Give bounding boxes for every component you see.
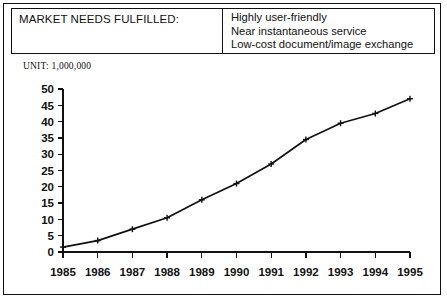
data-point-marker [407,96,413,102]
data-point-marker [372,110,378,116]
y-axis-tick-label: 0 [48,246,54,258]
y-axis-tick-label: 10 [41,214,54,226]
x-axis-tick-label: 1992 [293,266,319,278]
y-axis: 05101520253035404550 [41,83,63,258]
chart-canvas: 05101520253035404550 1985198619871988198… [0,0,447,302]
x-axis-tick-label: 1991 [258,266,284,278]
data-point-marker [164,215,170,221]
x-axis: 1985198619871988198919901991199219931994… [50,252,423,278]
y-axis-tick-label: 20 [41,181,54,193]
data-point-marker [338,120,344,126]
data-point-marker [199,197,205,203]
line-chart: 05101520253035404550 1985198619871988198… [0,0,447,302]
x-axis-tick-label: 1987 [120,266,146,278]
x-axis-tick-label: 1995 [397,266,423,278]
y-axis-tick-label: 35 [41,132,54,144]
data-point-marker [95,238,101,244]
y-axis-tick-label: 15 [41,197,54,209]
y-axis-tick-label: 25 [41,165,54,177]
x-axis-tick-label: 1989 [189,266,215,278]
y-axis-tick-label: 40 [41,116,54,128]
y-axis-tick-label: 50 [41,83,54,95]
y-axis-tick-label: 30 [41,148,54,160]
data-point-marker [60,244,66,250]
x-axis-tick-label: 1988 [154,266,180,278]
x-axis-tick-label: 1990 [224,266,250,278]
x-axis-tick-label: 1986 [85,266,111,278]
x-axis-tick-label: 1993 [328,266,354,278]
data-series [60,96,413,250]
figure-root: MARKET NEEDS FULFILLED: Highly user-frie… [0,0,447,302]
x-axis-tick-label: 1985 [50,266,76,278]
x-axis-tick-label: 1994 [363,266,389,278]
data-point-marker [129,226,135,232]
y-axis-tick-label: 5 [48,230,55,242]
y-axis-tick-label: 45 [41,100,54,112]
